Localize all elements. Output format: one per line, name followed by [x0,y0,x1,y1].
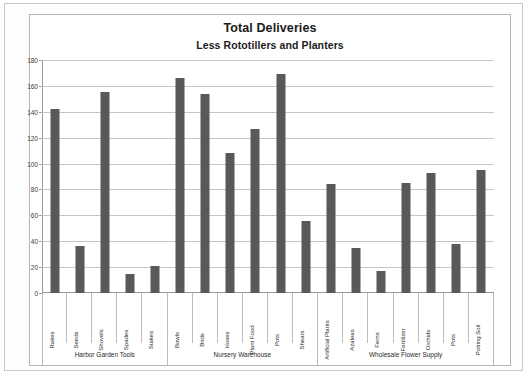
category-cell: Ferns [368,293,393,343]
category-axis-labels: RakesSeedsShovelsSpadesStakesBowlsBirdsH… [42,293,494,343]
bar-slot [318,60,343,293]
category-cell: Shears [293,293,318,343]
bar-slot [42,60,67,293]
bar[interactable] [452,244,461,293]
y-tick-label: 0 [34,290,38,297]
y-tick-label: 180 [27,57,38,64]
bar-slot [67,60,92,293]
bar[interactable] [50,109,59,293]
category-cell: Pots [444,293,469,343]
bar-slot [193,60,218,293]
category-cell: Birds [193,293,218,343]
bar[interactable] [100,92,109,293]
bar[interactable] [176,78,185,293]
y-tick-label: 80 [31,186,38,193]
category-cell: Potting Soil [469,293,494,343]
bar[interactable] [276,74,285,293]
bar[interactable] [427,173,436,293]
bar-slot [343,60,368,293]
bar-slot [218,60,243,293]
y-tick-label: 160 [27,82,38,89]
bar[interactable] [251,129,260,293]
bar-series [42,60,494,293]
chart-area[interactable]: Total Deliveries Less Rototillers and Pl… [29,14,511,366]
bar[interactable] [326,184,335,293]
group-cell: Wholesale Flower Supply [318,343,494,365]
bar-slot [117,60,142,293]
bar-slot [92,60,117,293]
bar-slot [368,60,393,293]
group-cell: Nursery Warehouse [168,343,319,365]
bar[interactable] [351,248,360,293]
bar-slot [419,60,444,293]
bar[interactable] [376,271,385,293]
category-cell: Bowls [168,293,193,343]
y-tick-label: 60 [31,212,38,219]
category-cell: Shovels [92,293,117,343]
bar-slot [469,60,494,293]
page-frame: Total Deliveries Less Rototillers and Pl… [4,3,523,371]
category-cell: Plant Food [243,293,268,343]
chart-subtitle: Less Rototillers and Planters [30,39,510,51]
bar[interactable] [402,183,411,293]
group-axis-labels: Harbor Garden ToolsNursery WarehouseWhol… [42,343,494,365]
bar[interactable] [150,266,159,293]
bar[interactable] [226,153,235,293]
bar-slot [293,60,318,293]
screenshot-root: Total Deliveries Less Rototillers and Pl… [0,0,527,376]
category-cell: Pots [268,293,293,343]
y-tick-label: 100 [27,160,38,167]
bar[interactable] [75,246,84,293]
group-label: Harbor Garden Tools [75,351,135,358]
y-tick-label: 140 [27,108,38,115]
bar-slot [444,60,469,293]
bar-slot [394,60,419,293]
plot-region: 020406080100120140160180 [42,60,494,293]
group-cell: Harbor Garden Tools [42,343,168,365]
category-cell: Rakes [42,293,67,343]
category-cell: Orchids [419,293,444,343]
category-cell: Azaleas [343,293,368,343]
y-tick-label: 20 [31,264,38,271]
bar[interactable] [477,170,486,293]
category-cell: Stakes [142,293,167,343]
category-cell: Fertilizer [394,293,419,343]
bar-slot [268,60,293,293]
bar-slot [243,60,268,293]
category-cell: Artificial Plants [318,293,343,343]
category-cell: Hoses [218,293,243,343]
category-cell: Spades [117,293,142,343]
chart-title: Total Deliveries [30,21,510,35]
group-label: Wholesale Flower Supply [369,351,442,358]
bar[interactable] [301,221,310,293]
y-tick-label: 120 [27,134,38,141]
category-cell: Seeds [67,293,92,343]
y-tick-label: 40 [31,238,38,245]
bar[interactable] [201,94,210,293]
bar-slot [168,60,193,293]
bar[interactable] [125,274,134,293]
group-label: Nursery Warehouse [214,351,272,358]
bar-slot [142,60,167,293]
